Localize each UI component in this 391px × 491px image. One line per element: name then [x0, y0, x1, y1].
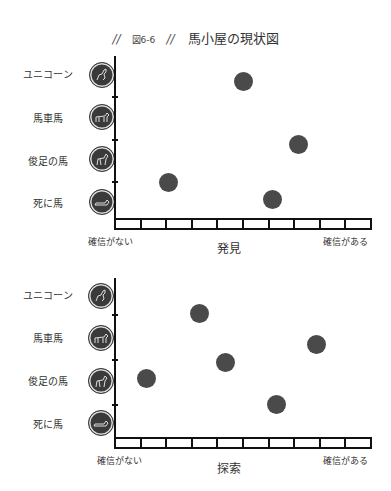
data-point	[216, 353, 235, 372]
chart-exploration: ユニコーン 馬車馬 俊足の馬 死に馬 確信がない 確信がある 探索	[0, 0, 391, 491]
x-axis-scale	[114, 437, 372, 449]
x-axis-left-label: 確信がない	[97, 454, 142, 467]
y-tick	[112, 359, 118, 361]
dead-horse-icon	[88, 410, 114, 436]
data-point	[190, 304, 209, 323]
y-tick	[112, 314, 118, 316]
row-label-unicorn: ユニコーン	[8, 287, 88, 302]
y-axis	[114, 278, 116, 444]
x-axis-right-label: 確信がある	[323, 454, 368, 467]
row-label-dead-horse: 死に馬	[8, 416, 88, 431]
unicorn-icon	[88, 283, 114, 309]
data-point	[307, 335, 326, 354]
workhorse-icon	[88, 325, 114, 351]
row-label-racehorse: 俊足の馬	[8, 373, 88, 388]
racehorse-icon	[88, 368, 114, 394]
row-label-workhorse: 馬車馬	[8, 330, 88, 345]
data-point	[137, 369, 156, 388]
x-axis-title: 探索	[217, 459, 241, 476]
data-point	[267, 395, 286, 414]
y-tick	[112, 404, 118, 406]
